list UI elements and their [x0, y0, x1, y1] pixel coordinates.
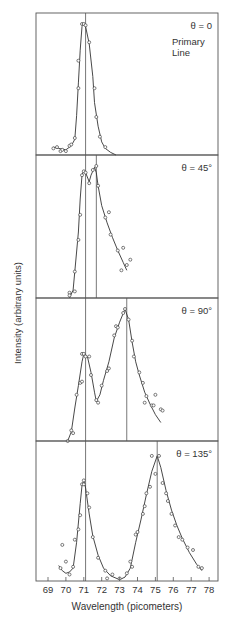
- data-point: [97, 401, 100, 404]
- data-point: [132, 355, 135, 358]
- data-point: [98, 135, 101, 138]
- data-point: [161, 482, 164, 485]
- data-point: [81, 174, 84, 177]
- data-point: [91, 169, 94, 172]
- data-point: [77, 238, 80, 241]
- data-point: [104, 146, 107, 149]
- data-point: [93, 87, 96, 90]
- data-point: [138, 371, 141, 374]
- data-point: [73, 290, 76, 293]
- data-point: [107, 367, 110, 370]
- data-point: [136, 531, 139, 534]
- data-point: [104, 216, 107, 219]
- data-point: [68, 294, 71, 297]
- data-point: [109, 233, 112, 236]
- data-point: [73, 270, 76, 273]
- data-point: [64, 150, 67, 153]
- data-point: [122, 312, 125, 315]
- data-point: [177, 536, 180, 539]
- data-point: [88, 355, 91, 358]
- data-point: [82, 483, 85, 486]
- data-point: [161, 409, 164, 412]
- x-tick-label: 74: [132, 584, 143, 595]
- x-tick-label: 78: [204, 584, 215, 595]
- data-point: [88, 506, 91, 509]
- data-point: [107, 211, 110, 214]
- fit-curve: [68, 309, 161, 441]
- data-point: [75, 393, 78, 396]
- panel-frame: [36, 155, 218, 298]
- x-tick-label: 72: [96, 584, 107, 595]
- data-point: [73, 538, 76, 541]
- y-axis-label: Intensity (arbitrary units): [12, 262, 23, 364]
- x-tick-label: 77: [186, 584, 197, 595]
- data-point: [90, 374, 93, 377]
- data-point: [95, 165, 98, 168]
- x-tick-label: 71: [79, 584, 90, 595]
- data-point: [131, 339, 134, 342]
- data-point: [174, 524, 177, 527]
- data-point: [52, 147, 55, 150]
- data-point: [79, 213, 82, 216]
- panel-sublabel: Line: [172, 47, 190, 58]
- data-point: [70, 143, 73, 146]
- panel-angle-label: θ = 135°: [176, 448, 212, 459]
- data-point: [81, 380, 84, 383]
- chart-figure: θ = 0PrimaryLineθ = 45°θ = 90°θ = 135°69…: [0, 0, 230, 624]
- data-point: [116, 249, 119, 252]
- data-point: [143, 401, 146, 404]
- data-point: [61, 543, 64, 546]
- data-point: [197, 565, 200, 568]
- x-axis-label: Wavelength (picometers): [72, 601, 183, 612]
- data-point: [154, 393, 157, 396]
- data-point: [127, 318, 130, 321]
- data-point: [84, 355, 87, 358]
- data-point: [120, 269, 123, 272]
- data-point: [88, 182, 91, 185]
- data-point: [143, 505, 146, 508]
- data-point: [88, 41, 91, 44]
- data-point: [200, 567, 203, 570]
- data-point: [113, 334, 116, 337]
- data-point: [150, 454, 153, 457]
- data-point: [106, 577, 109, 580]
- data-point: [104, 569, 107, 572]
- x-tick-label: 69: [43, 584, 54, 595]
- data-point: [154, 472, 157, 475]
- data-point: [145, 395, 148, 398]
- data-point: [82, 479, 85, 482]
- panel-sublabel: Primary: [172, 36, 205, 47]
- data-point: [125, 572, 128, 575]
- x-tick-label: 75: [150, 584, 161, 595]
- data-point: [61, 148, 64, 151]
- data-point: [186, 546, 189, 549]
- data-point: [97, 556, 100, 559]
- fit-curve: [53, 24, 116, 155]
- data-point: [111, 573, 114, 576]
- data-point: [91, 536, 94, 539]
- data-point: [116, 326, 119, 329]
- data-point: [131, 565, 134, 568]
- x-tick-label: 73: [114, 584, 125, 595]
- data-point: [165, 492, 168, 495]
- data-point: [77, 59, 80, 62]
- data-point: [129, 258, 132, 261]
- data-point: [192, 549, 195, 552]
- data-point: [72, 565, 75, 568]
- data-point: [86, 492, 89, 495]
- data-point: [59, 567, 62, 570]
- data-point: [149, 485, 152, 488]
- data-point: [73, 137, 76, 140]
- panel-frame: [36, 13, 218, 155]
- panel-frame: [36, 441, 218, 581]
- data-point: [97, 184, 100, 187]
- data-point: [125, 264, 128, 267]
- panel-angle-label: θ = 45°: [182, 162, 213, 173]
- data-point: [166, 500, 169, 503]
- data-point: [77, 528, 80, 531]
- data-point: [95, 116, 98, 119]
- data-point: [170, 512, 173, 515]
- stacked-spectra-plot: θ = 0PrimaryLineθ = 45°θ = 90°θ = 135°69…: [0, 0, 230, 624]
- data-point: [124, 308, 127, 311]
- data-point: [152, 404, 155, 407]
